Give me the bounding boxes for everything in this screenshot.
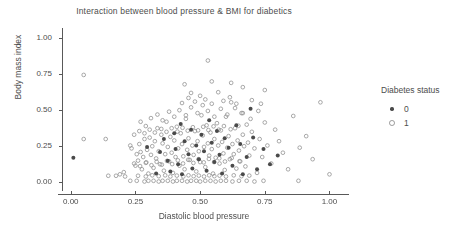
legend-marker-filled-dot-icon	[385, 102, 399, 116]
plot-panel	[63, 31, 345, 188]
chart-root: Interaction between blood pressure & BMI…	[0, 0, 463, 243]
legend-label-1: 1	[404, 118, 409, 128]
legend-item-0[interactable]: 0	[385, 102, 461, 116]
y-tick-label: 0.50	[0, 105, 52, 114]
y-axis-title: Body mass index	[13, 7, 23, 127]
x-tick-label: 0.50	[180, 197, 220, 206]
x-tick-mark	[329, 191, 330, 194]
legend: Diabetes status 0 1	[381, 85, 461, 130]
y-tick-label: 0.00	[0, 177, 52, 186]
legend-item-1[interactable]: 1	[385, 116, 461, 130]
x-tick-label: 0.75	[245, 197, 285, 206]
x-axis-title: Diastolic blood pressure	[63, 211, 345, 221]
chart-title: Interaction between blood pressure & BMI…	[0, 6, 368, 16]
x-tick-mark	[265, 191, 266, 194]
y-tick-label: 0.25	[0, 141, 52, 150]
y-tick-mark	[59, 74, 62, 75]
legend-title: Diabetes status	[381, 85, 461, 95]
x-tick-label: 1.00	[309, 197, 349, 206]
y-tick-label: 0.75	[0, 69, 52, 78]
x-tick-label: 0.25	[115, 197, 155, 206]
y-tick-mark	[59, 110, 62, 111]
x-tick-label: 0.00	[51, 197, 91, 206]
scatter-canvas	[63, 31, 345, 188]
legend-marker-open-circle-icon	[385, 116, 399, 130]
y-tick-mark	[59, 182, 62, 183]
x-tick-mark	[200, 191, 201, 194]
y-axis-line	[62, 28, 63, 191]
x-tick-mark	[135, 191, 136, 194]
x-axis-line	[58, 194, 349, 195]
y-tick-mark	[59, 38, 62, 39]
y-tick-label: 1.00	[0, 33, 52, 42]
legend-label-0: 0	[404, 104, 409, 114]
x-tick-mark	[71, 191, 72, 194]
y-tick-mark	[59, 146, 62, 147]
